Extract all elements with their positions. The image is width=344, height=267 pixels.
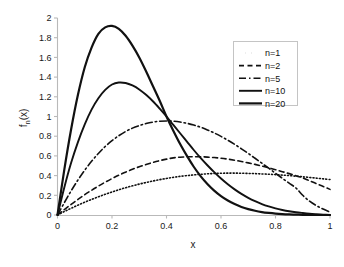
y-tick-label: 0	[46, 210, 51, 220]
chart-legend: n=1n=2n=5n=10n=20	[234, 42, 298, 109]
y-tick-label: 1.2	[39, 92, 52, 102]
x-tick-label: 0.4	[160, 221, 173, 231]
y-tick-label: 0.8	[39, 131, 52, 141]
x-tick-label: 1	[327, 221, 332, 231]
y-tick-label: 1.8	[39, 33, 52, 43]
y-tick-label: 0.4	[39, 171, 52, 181]
y-tick-label: 1	[46, 112, 51, 122]
legend-label-n-10: n=10	[265, 86, 285, 96]
line-chart: 00.20.40.60.811.21.41.61.82 00.20.40.60.…	[0, 0, 344, 267]
x-tick-label: 0	[55, 221, 60, 231]
legend-label-n-5: n=5	[265, 74, 280, 84]
x-tick-label: 0.8	[269, 221, 282, 231]
y-tick-label: 2	[46, 13, 51, 23]
y-tick-label: 1.6	[39, 53, 52, 63]
y-tick-label: 1.4	[39, 72, 52, 82]
legend-label-n-2: n=2	[265, 61, 280, 71]
x-axis-title: x	[191, 239, 196, 250]
legend-label-n-1: n=1	[265, 48, 280, 58]
x-tick-label: 0.2	[106, 221, 119, 231]
y-tick-label: 0.6	[39, 151, 52, 161]
x-tick-label: 0.6	[215, 221, 228, 231]
legend-label-n-20: n=20	[265, 99, 285, 109]
y-tick-label: 0.2	[39, 191, 52, 201]
y-axis-title-tail: (x)	[18, 109, 29, 121]
chart-figure: 00.20.40.60.811.21.41.61.82 00.20.40.60.…	[0, 0, 344, 267]
